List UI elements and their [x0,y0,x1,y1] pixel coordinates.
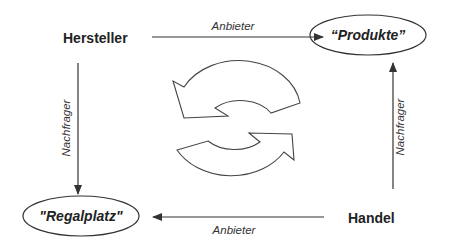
cycle-arrow-upper [173,61,300,118]
node-produkte: “Produkte” [310,15,426,55]
edge-label-right-nachfrager: Nachfrager [394,97,406,155]
exchange-diagram: Hersteller Anbieter “Produkte” Nachfrage… [0,0,469,252]
produkte-label: “Produkte” [331,27,406,43]
node-handel: Handel [348,210,395,226]
node-regalplatz: "Regalplatz" [23,196,139,236]
node-hersteller: Hersteller [63,30,128,46]
cycle-arrow-lower [177,133,294,176]
cycle-arrows-icon [173,61,300,176]
edge-label-left-nachfrager: Nachfrager [60,98,72,156]
edge-label-top-anbieter: Anbieter [211,20,256,32]
edge-label-bottom-anbieter: Anbieter [212,224,257,236]
regalplatz-label: "Regalplatz" [39,208,123,224]
